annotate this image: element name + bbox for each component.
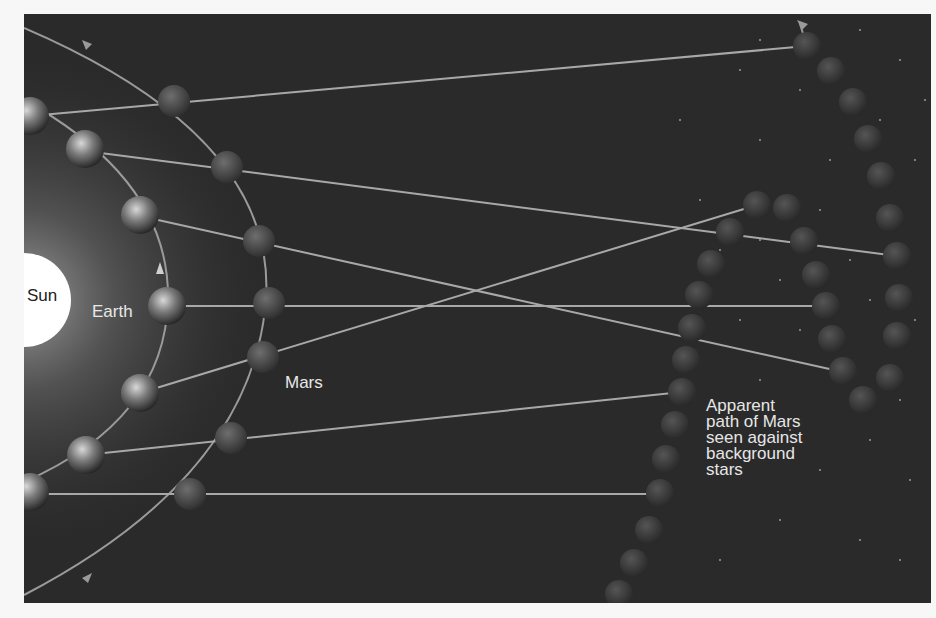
apparent-path-label: Apparent path of Mars seen against backg… bbox=[706, 398, 826, 478]
mars-icon bbox=[215, 422, 247, 454]
mars-icon bbox=[247, 341, 279, 373]
apparent-path-label-line: stars bbox=[706, 462, 826, 478]
earth-icon bbox=[148, 287, 186, 325]
earth-icon bbox=[67, 436, 105, 474]
mars-icon bbox=[243, 225, 275, 257]
mars-icon bbox=[253, 287, 285, 319]
earth-icon bbox=[66, 130, 104, 168]
retrograde-motion-diagram: Sun Earth Mars Apparent path of Mars see… bbox=[24, 14, 931, 603]
mars-label: Mars bbox=[285, 373, 323, 392]
diagram-canvas bbox=[24, 14, 931, 603]
earth-icon bbox=[121, 374, 159, 412]
mars-icon bbox=[158, 85, 190, 117]
mars-icon bbox=[211, 151, 243, 183]
mars-icon bbox=[174, 478, 206, 510]
earth-label: Earth bbox=[92, 302, 133, 321]
sun-label: Sun bbox=[27, 286, 57, 305]
earth-icon bbox=[121, 196, 159, 234]
